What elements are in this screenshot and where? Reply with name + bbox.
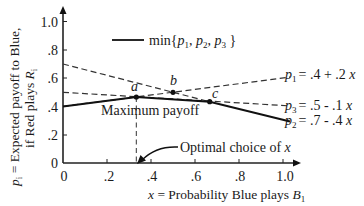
eq-p1: p1= .4 + .2 x: [284, 67, 356, 84]
label-c: c: [212, 86, 219, 101]
y-tick-0.8: .8: [48, 43, 59, 58]
label-a: a: [131, 79, 138, 94]
x-tick-0.6: .6: [191, 169, 202, 184]
eq-p2: p2= .7 - .4 x: [284, 113, 353, 130]
x-tick-1.0: 1.0: [276, 169, 294, 184]
optimal-arrow: [142, 147, 178, 160]
x-tick-0.8: .8: [235, 169, 246, 184]
x-axis-arrow-icon: [293, 160, 301, 167]
y-tick-1.0: 1.0: [41, 15, 59, 30]
y-tick-labels: 0 .2 .4 .6 .8 1.0: [41, 15, 59, 172]
payoff-chart: 0 .2 .4 .6 .8 1.0 0 .2 .4 .6 .8 1.0 a b …: [0, 0, 364, 206]
legend-label: min{p1, p2, p3 }: [149, 33, 236, 50]
y-tick-0.2: .2: [48, 128, 59, 143]
point-b: [170, 90, 175, 95]
y-tick-0.4: .4: [48, 100, 59, 115]
y-axis-label-line2: if Red plays Ri: [22, 68, 39, 148]
x-axis-label: x = Probability Blue plays B1: [147, 187, 305, 204]
point-a: [134, 94, 139, 99]
y-axis-label: pi = Expected payoff to Blue, if Red pla…: [7, 28, 39, 187]
x-tick-labels: 0 .2 .4 .6 .8 1.0: [61, 169, 294, 184]
legend: min{p1, p2, p3 }: [112, 33, 236, 50]
max-payoff-label: Maximum payoff: [101, 103, 199, 118]
x-tick-0.4: .4: [147, 169, 158, 184]
x-tick-0.2: .2: [104, 169, 115, 184]
label-b: b: [170, 73, 177, 88]
y-tick-0.6: .6: [48, 71, 59, 86]
x-tick-0: 0: [61, 169, 68, 184]
y-axis-arrow-icon: [60, 6, 67, 14]
y-tick-0: 0: [51, 156, 58, 171]
optimal-choice-label: Optimal choice of x: [180, 140, 292, 155]
